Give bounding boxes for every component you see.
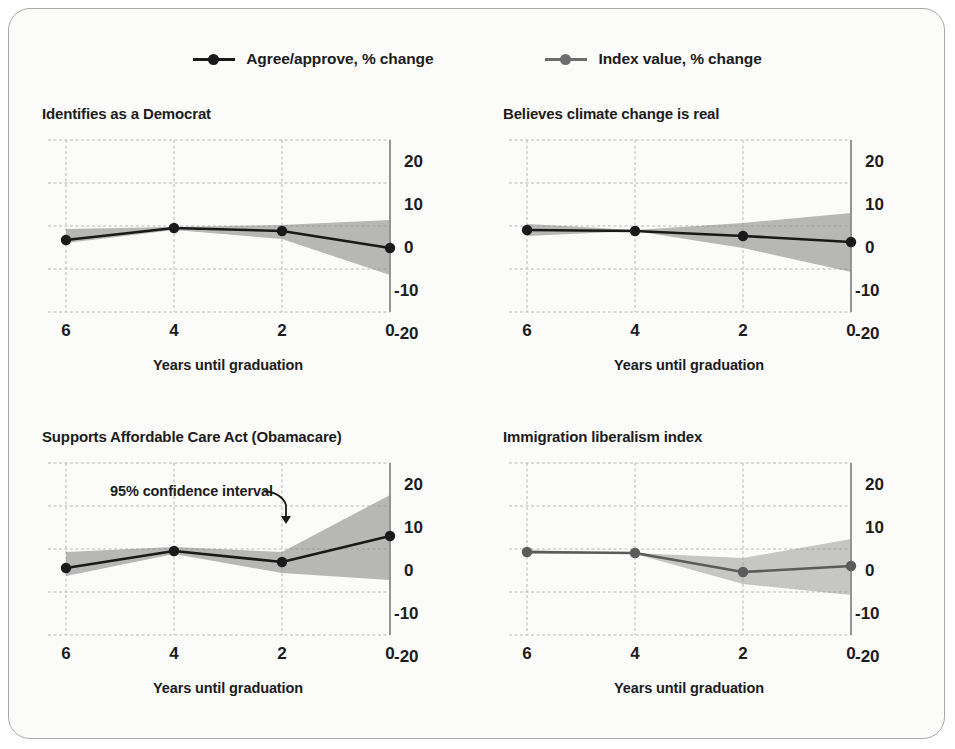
x-tick-4: 4	[169, 644, 178, 664]
x-tick-6: 6	[61, 321, 70, 341]
panel-supports-affordable-care-act: Supports Affordable Care Act (Obamacare)	[42, 428, 442, 698]
x-tick-2: 2	[738, 644, 747, 664]
x-axis-label: Years until graduation	[153, 357, 303, 373]
x-tick-4: 4	[630, 644, 639, 664]
legend-label-index-value: Index value, % change	[598, 50, 761, 68]
y-tick-neg10: -10	[394, 281, 419, 301]
plot-area: 20 10 0 -10 -20 6 4 2 0 Years until grad…	[42, 131, 398, 317]
x-axis-label: Years until graduation	[614, 680, 764, 696]
panel-title: Immigration liberalism index	[503, 428, 702, 445]
y-tick-neg10: -10	[394, 604, 419, 624]
x-tick-2: 2	[277, 644, 286, 664]
y-tick-20: 20	[865, 152, 884, 172]
chart-legend: Agree/approve, % change Index value, % c…	[9, 39, 946, 79]
y-tick-10: 10	[404, 195, 423, 215]
x-tick-0: 0	[846, 321, 855, 341]
line-dot-marker-icon	[193, 52, 235, 66]
y-tick-10: 10	[404, 518, 423, 538]
figure-frame: Agree/approve, % change Index value, % c…	[8, 8, 945, 739]
x-tick-4: 4	[630, 321, 639, 341]
confidence-band	[66, 495, 390, 580]
legend-label-agree-approve: Agree/approve, % change	[246, 50, 433, 68]
panel-identifies-as-democrat: Identifies as a Democrat	[42, 105, 442, 375]
x-tick-0: 0	[385, 644, 394, 664]
y-tick-neg10: -10	[855, 281, 880, 301]
y-tick-neg20: -20	[855, 324, 880, 344]
y-tick-0: 0	[865, 561, 874, 581]
panel-title: Supports Affordable Care Act (Obamacare)	[42, 428, 342, 445]
y-tick-10: 10	[865, 518, 884, 538]
legend-item-agree-approve: Agree/approve, % change	[193, 50, 433, 68]
line-dot-marker-icon	[545, 52, 587, 66]
confidence-band	[527, 539, 851, 595]
y-tick-20: 20	[404, 152, 423, 172]
panel-title: Identifies as a Democrat	[42, 105, 211, 122]
plot-svg	[42, 131, 398, 317]
plot-area: 20 10 0 -10 -20 6 4 2 0 Years until grad…	[503, 131, 859, 317]
y-tick-0: 0	[865, 238, 874, 258]
confidence-band	[527, 213, 851, 272]
y-tick-10: 10	[865, 195, 884, 215]
plot-svg	[503, 454, 859, 640]
panel-title: Believes climate change is real	[503, 105, 719, 122]
x-axis-label: Years until graduation	[614, 357, 764, 373]
y-tick-neg20: -20	[394, 324, 419, 344]
panel-believes-climate-change-is-real: Believes climate change is real	[503, 105, 903, 375]
y-tick-20: 20	[865, 475, 884, 495]
x-axis-label: Years until graduation	[153, 680, 303, 696]
panel-immigration-liberalism-index: Immigration liberalism index	[503, 428, 903, 698]
plot-area: 20 10 0 -10 -20 6 4 2 0 Years until grad…	[503, 454, 859, 640]
x-tick-0: 0	[385, 321, 394, 341]
plot-area: 95% confidence interval 20 10 0 -10 -20 …	[42, 454, 398, 640]
y-tick-20: 20	[404, 475, 423, 495]
x-tick-6: 6	[61, 644, 70, 664]
x-tick-4: 4	[169, 321, 178, 341]
x-tick-0: 0	[846, 644, 855, 664]
y-tick-0: 0	[404, 238, 413, 258]
ci-annotation-label: 95% confidence interval	[110, 483, 273, 499]
plot-svg	[42, 454, 398, 640]
x-tick-2: 2	[277, 321, 286, 341]
x-tick-6: 6	[522, 321, 531, 341]
legend-item-index-value: Index value, % change	[545, 50, 761, 68]
plot-svg	[503, 131, 859, 317]
y-tick-0: 0	[404, 561, 413, 581]
y-tick-neg20: -20	[855, 647, 880, 667]
x-tick-2: 2	[738, 321, 747, 341]
y-tick-neg20: -20	[394, 647, 419, 667]
x-tick-6: 6	[522, 644, 531, 664]
y-tick-neg10: -10	[855, 604, 880, 624]
